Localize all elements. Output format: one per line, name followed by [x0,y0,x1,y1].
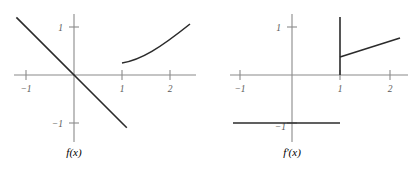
x-ticklabel-2-f-prime: 2 [388,84,393,94]
curve-increasing-branch-f-prime [340,38,400,57]
curve-decreasing-branch-f [16,17,126,127]
y-ticklabel-1-f-prime: 1 [276,23,281,33]
plot-panel-f-prime: −1 1 2 1 −1 f'(x) [208,0,416,173]
x-ticklabel-2-f: 2 [168,84,173,94]
plot-svg-f-prime: −1 1 2 1 −1 [208,0,416,173]
curve-increasing-branch-f [122,24,190,63]
figure-container: −1 1 2 1 −1 f(x) −1 [0,0,416,173]
x-ticklabel-1-f-prime: 1 [338,84,343,94]
y-ticklabel-neg1-f: −1 [52,119,63,129]
x-ticklabel-neg1-f: −1 [20,84,31,94]
x-ticklabel-neg1-f-prime: −1 [234,84,245,94]
x-ticklabel-1-f: 1 [120,84,125,94]
plot-svg-f: −1 1 2 1 −1 [0,0,208,173]
plot-panel-f: −1 1 2 1 −1 f(x) [0,0,208,173]
y-ticklabel-1-f: 1 [58,23,63,33]
